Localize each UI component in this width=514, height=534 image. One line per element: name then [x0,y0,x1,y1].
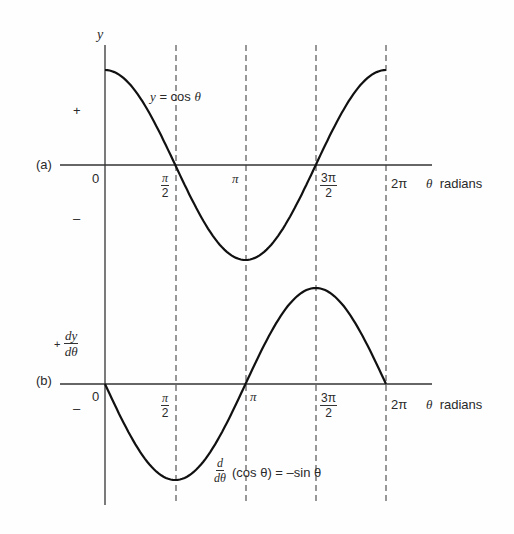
tick-2pi-b: 2π [391,398,407,411]
tick-3pi-half-a: 3π2 [320,172,337,199]
tick-0-b: 0 [92,390,99,403]
minus-sign-a: – [73,212,80,225]
minus-sign-b: – [73,402,80,415]
plot-canvas [0,0,514,534]
dashed-gridlines [176,45,386,505]
panel-a-label: (a) [36,158,52,171]
plus-sign-a: + [73,104,81,117]
cos-curve-label: y = cos θ [150,90,201,103]
tick-2pi-a: 2π [391,177,407,190]
panel-b-label: (b) [36,374,52,387]
derivative-d-dtheta: ddθ [214,457,226,484]
y-axis-label: y [97,28,103,42]
tick-0-a: 0 [92,172,99,185]
tick-pi-b: π [250,390,257,403]
plus-sign-b: + [54,339,60,350]
tick-pi-half-a: π2 [161,172,169,199]
tick-pi-half-b: π2 [161,392,169,419]
x-axis-label-b: θ radians [426,398,482,411]
dy-dtheta-label: dydθ [64,329,78,358]
x-axis-label-a: θ radians [426,177,482,190]
figure: y y = cos θ + – (a) 0 π2 π 3π2 2π θ radi… [0,0,514,534]
derivative-label: (cos θ) = –sin θ [232,466,321,479]
tick-3pi-half-b: 3π2 [320,392,337,419]
tick-pi-a: π [232,172,239,185]
